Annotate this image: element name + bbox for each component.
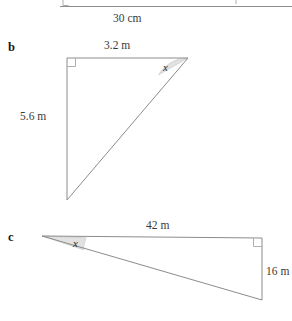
figure-a-base-length-label: 30 cm <box>113 13 141 25</box>
figure-c-right-side-label: 16 m <box>266 266 289 278</box>
figure-c-part-letter: c <box>8 231 14 244</box>
figure-b-part-letter: b <box>8 41 15 54</box>
figure-b-left-side-label: 5.6 m <box>20 111 46 123</box>
figure-sheet: 30 cm b 3.2 m 5.6 m x c 42 m 16 m x <box>0 0 292 321</box>
figure-c-angle-x-label: x <box>73 238 78 249</box>
figure-a-group <box>60 0 292 7</box>
figure-b-triangle-outline <box>67 58 188 200</box>
figure-b-angle-x-label: x <box>163 62 168 73</box>
geometry-drawing-layer <box>0 0 292 321</box>
figure-a-right-angle-marker <box>63 0 69 6</box>
figure-b-top-side-label: 3.2 m <box>104 40 130 52</box>
figure-c-right-angle-marker <box>254 238 263 247</box>
figure-b-right-angle-marker <box>67 58 76 67</box>
figure-c-top-side-label: 42 m <box>146 220 169 232</box>
figure-b-group <box>67 58 188 200</box>
